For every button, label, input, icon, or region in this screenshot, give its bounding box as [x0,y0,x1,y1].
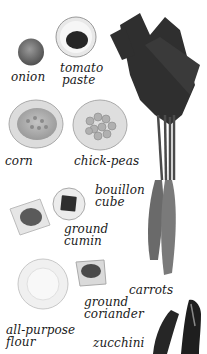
carrots-image [110,5,205,280]
tomato-paste-label: tomatopaste [60,62,103,86]
zucchini-label: zucchini [93,337,144,349]
corn-image [8,99,64,149]
ground-cumin-image [6,195,54,239]
bouillon-cube-image [52,187,86,221]
tomato-paste-image [55,16,97,58]
all-purpose-flour-image [17,258,69,310]
onion-label: onion [11,71,45,83]
onion-image [16,37,46,67]
ground-coriander-image [74,258,108,288]
ground-coriander-label: groundcoriander [84,296,144,320]
corn-label: corn [5,155,33,167]
zucchini-image [145,296,207,354]
all-purpose-flour-label: all-purposeflour [6,324,75,348]
ground-cumin-label: groundcumin [64,223,108,247]
carrots-label: carrots [129,284,173,296]
